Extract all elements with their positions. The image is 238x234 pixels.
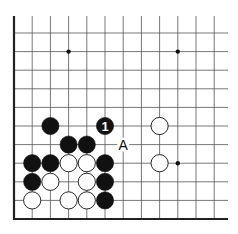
move-number-label: 1 (101, 119, 108, 134)
black-stone (42, 117, 59, 134)
board-markers: A (117, 137, 129, 153)
black-stone (96, 192, 113, 209)
position-marker-label: A (119, 137, 129, 153)
star-point-icon (176, 161, 180, 165)
white-stone (24, 192, 41, 209)
white-stone (78, 192, 95, 209)
white-stone (60, 192, 77, 209)
black-stone (96, 155, 113, 172)
black-stone (24, 173, 41, 190)
white-stone (42, 173, 59, 190)
white-stone (60, 155, 77, 172)
white-stone (151, 155, 168, 172)
black-stone (42, 155, 59, 172)
grid-lines (13, 16, 228, 220)
star-point-icon (176, 49, 180, 53)
white-stone (78, 173, 95, 190)
black-stone (96, 173, 113, 190)
star-point-icon (66, 49, 70, 53)
white-stone (151, 117, 168, 134)
go-board: A 1 (0, 0, 238, 234)
white-stone (78, 155, 95, 172)
black-stone (78, 136, 95, 153)
black-stone (60, 136, 77, 153)
black-stone (24, 155, 41, 172)
